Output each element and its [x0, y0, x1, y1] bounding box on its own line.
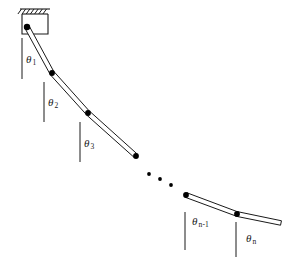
continuation-dots	[147, 172, 173, 187]
theta-n-minus-1-subscript: n-1	[197, 220, 209, 229]
rod-1	[25, 26, 54, 74]
rod-n-minus-1	[185, 193, 238, 216]
ceiling-hatch-stroke	[35, 9, 39, 14]
joint-n-minus-1	[183, 192, 189, 198]
theta-3-label: θ3	[84, 138, 94, 151]
theta-2-subscript: 2	[53, 101, 58, 110]
pivot-dot	[24, 24, 30, 30]
continuation-dot-2	[158, 177, 162, 181]
joint-2	[85, 110, 91, 116]
theta-1-subscript: 1	[31, 58, 36, 67]
pivot-point	[24, 24, 30, 30]
ceiling-hatch-stroke	[26, 9, 30, 14]
ceiling-hatch-stroke	[30, 9, 34, 14]
pendulum-figure: θ1θ2θ3θn-1θn	[0, 0, 288, 263]
ceiling-hatch-stroke	[39, 9, 43, 14]
joint-n	[234, 211, 240, 217]
ceiling-support	[18, 9, 50, 34]
theta-1-label: θ1	[26, 54, 36, 67]
rod-n	[237, 212, 282, 226]
joint-1	[49, 70, 55, 76]
ceiling-hatch-stroke	[43, 9, 47, 14]
pendulum-joints	[49, 70, 240, 217]
rod-3	[86, 111, 137, 157]
pendulum-diagram-canvas	[0, 0, 288, 263]
continuation-dot-1	[147, 172, 151, 176]
continuation-dot-3	[169, 183, 173, 187]
theta-n-subscript: n	[251, 237, 256, 246]
pendulum-rods	[25, 26, 282, 225]
theta-n-minus-1-label: θn-1	[192, 216, 209, 229]
theta-n-label: θn	[246, 233, 256, 246]
joint-3	[133, 153, 139, 159]
theta-3-subscript: 3	[89, 142, 94, 151]
ceiling-hatch-stroke	[22, 9, 26, 14]
ceiling-hatch-stroke	[18, 9, 22, 14]
theta-2-label: θ2	[48, 97, 58, 110]
